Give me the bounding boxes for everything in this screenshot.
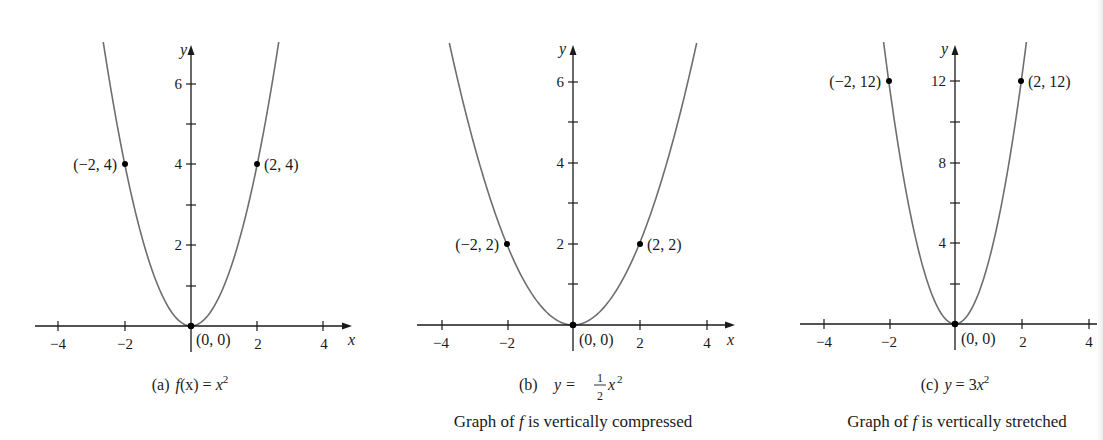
x-tick-label: −4 [816, 334, 832, 350]
x-tick-label: −4 [50, 336, 66, 352]
caption-b: (b) y = 1 2 x 2 [519, 371, 623, 403]
y-tick-label: 2 [557, 236, 565, 252]
data-point [637, 241, 643, 247]
x-tick-label: −4 [433, 335, 449, 351]
y-tick-label: 4 [175, 156, 183, 172]
x-tick-label: −2 [117, 336, 133, 352]
data-point [254, 161, 260, 167]
point-label: (−2, 12) [829, 73, 881, 91]
data-point-origin [952, 321, 959, 328]
figure-canvas: −4 −2 2 4 x 2 4 6 y (−2, 4) (2, 4) (0, 0… [0, 0, 1103, 440]
x-tick-label: 4 [320, 336, 328, 352]
y-tick-label: 6 [557, 74, 565, 90]
svg-text:=: = [566, 376, 575, 393]
panel-c: −4 −2 2 4 4 8 12 y (−2, 12) (2, 12) (0, … [800, 40, 1103, 431]
page-edge-shadow [1097, 0, 1103, 440]
y-tick-label: 4 [939, 235, 947, 251]
point-label-origin: (0, 0) [961, 330, 996, 348]
y-tick-label: 4 [557, 155, 565, 171]
point-label: (2, 2) [647, 236, 682, 254]
point-label: (2, 4) [264, 156, 299, 174]
y-axis-arrow-a [188, 45, 195, 55]
y-tick-label: 8 [939, 155, 947, 171]
point-label-origin: (0, 0) [579, 331, 614, 349]
panel-b: −4 −2 2 4 x 2 4 6 y (−2, 2) (2, 2) (0, 0… [417, 40, 735, 431]
point-label: (−2, 4) [73, 156, 117, 174]
y-axis-arrow-b [570, 45, 577, 55]
svg-text:(b): (b) [519, 376, 538, 394]
x-tick-label: 2 [254, 336, 262, 352]
svg-text:2: 2 [617, 373, 623, 385]
point-label-origin: (0, 0) [196, 331, 231, 349]
caption-a: (a)f(x) = x2 [152, 373, 229, 394]
x-axis-label: x [726, 331, 734, 348]
svg-text:y: y [552, 376, 562, 394]
y-tick-label: 12 [931, 73, 946, 89]
data-point [504, 241, 510, 247]
x-axis-arrow-b [725, 322, 735, 329]
x-tick-label: 2 [636, 335, 644, 351]
caption-c: (c)y = 3x2 [921, 373, 990, 394]
y-axis-label: y [557, 40, 567, 58]
data-point [1018, 78, 1024, 84]
subtitle-b: Graph of f is vertically compressed [454, 412, 693, 431]
y-axis-label: y [178, 41, 188, 59]
fraction-denominator: 2 [597, 389, 603, 403]
svg-text:x: x [607, 376, 615, 393]
x-tick-label: −2 [881, 334, 897, 350]
x-axis-label: x [347, 331, 355, 348]
point-label: (−2, 2) [455, 236, 499, 254]
data-point [886, 78, 892, 84]
panel-a: −4 −2 2 4 x 2 4 6 y (−2, 4) (2, 4) (0, 0… [35, 41, 355, 394]
data-point [122, 161, 128, 167]
y-axis-arrow-c [952, 45, 959, 55]
x-tick-label: 4 [1085, 334, 1093, 350]
y-tick-label: 6 [175, 76, 183, 92]
fraction-numerator: 1 [597, 371, 603, 385]
x-tick-label: 4 [703, 335, 711, 351]
point-label: (2, 12) [1028, 73, 1071, 91]
data-point-origin [188, 323, 195, 330]
x-tick-label: 2 [1019, 334, 1027, 350]
x-tick-label: −2 [499, 335, 515, 351]
data-point-origin [570, 322, 577, 329]
x-axis-arrow-a [342, 323, 352, 330]
y-axis-label: y [939, 40, 949, 58]
subtitle-c: Graph of f is vertically stretched [847, 412, 1067, 431]
y-tick-label: 2 [175, 237, 183, 253]
